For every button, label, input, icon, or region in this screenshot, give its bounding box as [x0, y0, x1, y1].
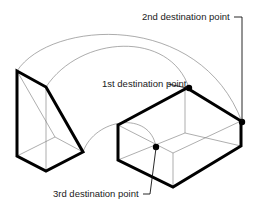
- wedge-outline: [17, 71, 83, 171]
- box-outline: [118, 88, 241, 187]
- align-diagram: 1st destination point 2nd destination po…: [0, 0, 262, 214]
- box-inner-edge: [118, 133, 185, 160]
- wedge-inner-edge: [17, 137, 55, 156]
- box-inner-edge: [173, 121, 241, 153]
- leader-lines: [143, 17, 242, 194]
- third-point-label: 3rd destination point: [53, 188, 139, 199]
- second-leader: [234, 17, 242, 121]
- third-leader: [143, 148, 156, 194]
- second-point-label: 2nd destination point: [142, 11, 230, 22]
- box-solid: [118, 87, 241, 187]
- box-inner-edge: [185, 133, 241, 146]
- wedge-solid: [17, 71, 83, 171]
- first-point-label: 1st destination point: [102, 78, 187, 89]
